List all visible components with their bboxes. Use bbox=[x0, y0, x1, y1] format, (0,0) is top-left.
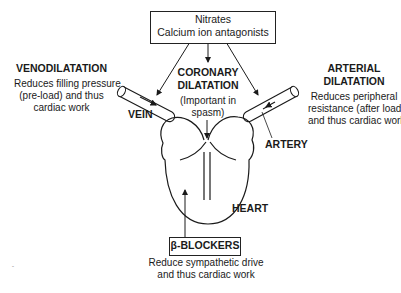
arterial-title-1: ARTERIAL bbox=[308, 62, 400, 75]
top-box-line1: Nitrates bbox=[151, 13, 275, 26]
arterial-desc-2: resistance (after load) bbox=[308, 103, 400, 115]
drug-action-diagram: ˇ Nitrates Calcium ion antagonists VENOD… bbox=[0, 0, 401, 293]
coronary-block: CORONARY DILATATION (Important in spasm) bbox=[163, 66, 253, 119]
artery-label: ARTERY bbox=[265, 138, 308, 151]
coronary-note-1: (Important in bbox=[163, 95, 253, 107]
arterial-desc-3: and thus cardiac work bbox=[308, 115, 400, 127]
heart-label: HEART bbox=[232, 202, 268, 215]
venodilatation-desc-2: (pre-load) and thus bbox=[14, 90, 109, 102]
beta-desc-1: Reduce sympathetic drive bbox=[144, 257, 268, 269]
arterial-block: ARTERIAL DILATATION Reduces peripheral r… bbox=[308, 62, 400, 127]
vein-label: VEIN bbox=[128, 108, 153, 121]
coronary-title-2: DILATATION bbox=[163, 79, 253, 92]
artery-pointer bbox=[262, 112, 272, 138]
beta-desc-2: and thus cardiac work bbox=[144, 269, 268, 281]
arterial-title-2: DILATATION bbox=[308, 75, 400, 88]
beta-blockers-desc: Reduce sympathetic drive and thus cardia… bbox=[144, 257, 268, 281]
top-box-line2: Calcium ion antagonists bbox=[151, 26, 275, 39]
venodilatation-block: VENODILATATION Reduces filling pressure … bbox=[14, 62, 109, 114]
coronary-note-2: spasm) bbox=[163, 107, 253, 119]
nitrates-box: Nitrates Calcium ion antagonists bbox=[150, 11, 276, 44]
stray-mark: ˇ bbox=[12, 265, 14, 271]
coronary-title-1: CORONARY bbox=[163, 66, 253, 79]
venodilatation-title: VENODILATATION bbox=[14, 62, 109, 75]
venodilatation-desc-3: cardiac work bbox=[14, 102, 109, 114]
venodilatation-desc-1: Reduces filling pressure bbox=[14, 78, 109, 90]
arterial-desc-1: Reduces peripheral bbox=[308, 91, 400, 103]
beta-blockers-box: β-BLOCKERS bbox=[169, 237, 241, 256]
beta-blockers-label: β-BLOCKERS bbox=[171, 239, 240, 251]
